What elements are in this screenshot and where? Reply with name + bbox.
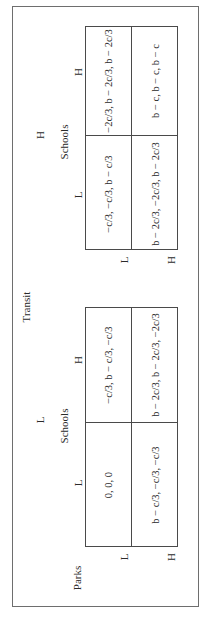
schools-col-l-table-h: L — [73, 192, 84, 199]
transit-label: Transit — [21, 292, 32, 323]
schools-label-table-l: Schools — [59, 409, 70, 444]
schools-col-h-table-l: H — [73, 356, 84, 364]
payoff-cell-LHL: −c/3, b − c/3, −c/3 — [103, 326, 114, 403]
payoff-table-transit-h — [85, 26, 178, 250]
row-divider — [131, 308, 132, 546]
payoff-cell-LHH: −2c/3, b − 2c/3, b − 2c/3 — [103, 29, 114, 133]
transit-strategy-h: H — [35, 131, 46, 139]
parks-row-h-table-l: H — [166, 553, 177, 561]
payoff-figure-page: Transit L Schools L H Parks L H 0, 0, 0 … — [0, 0, 210, 628]
payoff-cell-HLL: b − c/3, −c/3, −c/3 — [150, 446, 161, 523]
schools-label-table-h: Schools — [59, 125, 70, 160]
payoff-cell-HLH: b − 2c/3, −2c/3, b − 2c/3 — [150, 142, 161, 246]
row-divider — [131, 27, 132, 249]
parks-row-h-table-h: H — [166, 256, 177, 264]
schools-col-h-table-h: H — [73, 68, 84, 76]
parks-row-l-table-l: L — [119, 554, 130, 561]
schools-col-l-table-l: L — [73, 480, 84, 487]
payoff-cell-LLL: 0, 0, 0 — [103, 472, 114, 498]
payoff-table-transit-l — [85, 307, 178, 547]
parks-row-l-table-h: L — [119, 257, 130, 264]
payoff-cell-HHL: b − 2c/3, b − 2c/3, −2c/3 — [150, 313, 161, 417]
parks-label: Parks — [72, 566, 83, 590]
transit-strategy-l: L — [35, 417, 46, 424]
payoff-cell-HHH: b − c, b − c, b − c — [150, 44, 161, 118]
payoff-cell-LLH: −c/3, −c/3, b − c/3 — [103, 155, 114, 232]
